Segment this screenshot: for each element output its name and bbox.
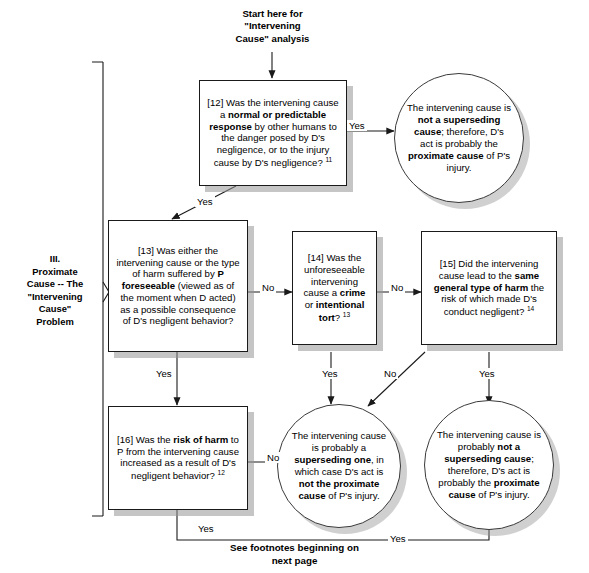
q14-yes-to-outcome-bottom-mid: Yes	[320, 368, 340, 379]
outcome-circle-bottom-middle[interactable]: The intervening cause is probably a supe…	[277, 404, 401, 528]
outcome-circle-top-right[interactable]: The intervening cause is not a supersedi…	[394, 73, 524, 203]
decision-box-16-text: [16] Was the risk of harm to P from the …	[115, 434, 241, 482]
flowchart-canvas: Start here for "Intervening Cause" analy…	[0, 0, 589, 573]
q14-no-to-q15: No	[389, 282, 405, 293]
q12-yes-to-q13: Yes	[195, 196, 215, 207]
decision-box-14[interactable]: [14] Was the unforeseeable intervening c…	[292, 231, 377, 345]
outcome-circle-top-right-text: The intervening cause is not a supersedi…	[407, 102, 511, 174]
decision-box-12[interactable]: [12] Was the intervening cause a normal …	[199, 80, 347, 186]
q16-no-to-outcome-bottom-mid: No	[265, 452, 281, 463]
decision-box-16[interactable]: [16] Was the risk of harm to P from the …	[108, 406, 248, 510]
start-label: Start here for "Intervening Cause" analy…	[205, 8, 340, 45]
decision-box-15-text: [15] Did the intervening cause lead to t…	[428, 258, 550, 318]
footnote-note: See footnotes beginning on next page	[0, 542, 589, 567]
decision-box-15[interactable]: [15] Did the intervening cause lead to t…	[421, 231, 557, 345]
decision-box-14-text: [14] Was the unforeseeable intervening c…	[299, 252, 370, 324]
section-title: III. Proximate Cause -- The "Intervening…	[14, 253, 96, 328]
outcome-circle-bottom-right[interactable]: The intervening cause is probably not a …	[424, 400, 554, 530]
q15-no-to-outcome-bottom-mid: No	[382, 368, 398, 379]
q12-yes-to-outcome-top-right: Yes	[347, 120, 367, 131]
decision-box-13-text: [13] Was either the intervening cause or…	[115, 245, 241, 328]
q13-yes-to-q16: Yes	[154, 368, 174, 379]
decision-box-13[interactable]: [13] Was either the intervening cause or…	[108, 220, 248, 352]
outcome-circle-bottom-right-text: The intervening cause is probably not a …	[437, 429, 541, 501]
q16-yes-down: Yes	[196, 523, 216, 534]
q13-no-to-q14: No	[260, 282, 276, 293]
outcome-circle-bottom-middle-text: The intervening cause is probably a supe…	[290, 430, 388, 502]
q15-yes-to-outcome-bottom-right: Yes	[477, 368, 497, 379]
decision-box-12-text: [12] Was the intervening cause a normal …	[206, 97, 340, 169]
